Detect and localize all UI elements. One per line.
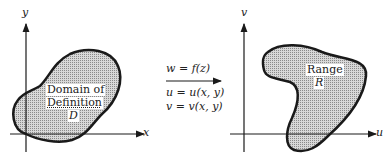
v-axis-label: v bbox=[241, 6, 247, 19]
diagram-canvas bbox=[0, 0, 389, 162]
range-symbol: R bbox=[314, 77, 324, 89]
mapping-function-text: w = f(z) bbox=[166, 62, 210, 75]
mapping-function: w = f(z) bbox=[166, 62, 210, 75]
domain-symbol: D bbox=[68, 110, 79, 122]
range-region bbox=[263, 45, 366, 151]
y-axis-label: y bbox=[22, 6, 28, 19]
domain-label-line1: Domain of bbox=[46, 84, 105, 96]
x-axis-label: x bbox=[143, 126, 149, 139]
u-equation: u = u(x, y) bbox=[166, 86, 224, 99]
v-equation: v = v(x, y) bbox=[166, 100, 223, 113]
domain-label-line2: Definition bbox=[46, 97, 103, 109]
u-axis-label: u bbox=[376, 126, 383, 139]
range-label: Range bbox=[306, 64, 344, 76]
